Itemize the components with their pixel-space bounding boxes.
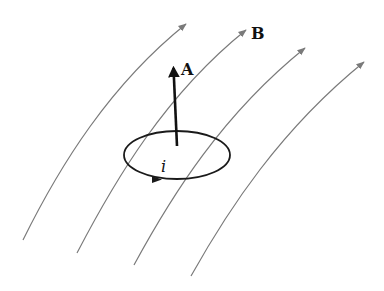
label-area-vector: A	[180, 60, 194, 79]
magnetic-dipole-diagram: A B i	[0, 0, 384, 291]
area-vector-a	[174, 68, 178, 146]
label-magnetic-field: B	[251, 24, 265, 43]
magnetic-field-lines	[23, 24, 364, 276]
field-line-4	[191, 62, 364, 276]
label-current: i	[161, 157, 166, 176]
field-line-3	[134, 48, 305, 265]
